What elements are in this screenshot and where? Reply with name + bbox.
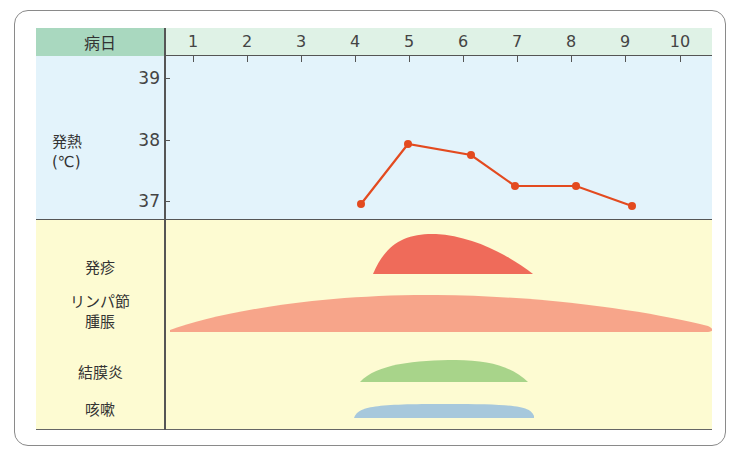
fever-line	[361, 144, 632, 206]
chart-graphics	[36, 28, 712, 430]
fever-point	[404, 140, 412, 148]
lymph-swelling-shape	[170, 295, 712, 332]
fever-point	[628, 202, 636, 210]
rash-shape	[373, 234, 533, 274]
fever-point	[511, 182, 519, 190]
fever-point	[572, 182, 580, 190]
cough-shape	[354, 404, 534, 418]
clinical-course-chart: 病日 1 2 3 4 5 6 7 8 9 10 発熱 (℃) 39 38 37 …	[36, 28, 712, 430]
conjunctivitis-shape	[360, 360, 528, 382]
label-column-divider	[164, 28, 166, 430]
fever-point	[467, 151, 475, 159]
fever-point	[357, 200, 365, 208]
